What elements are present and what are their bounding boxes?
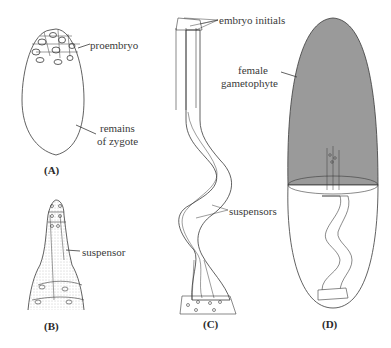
panel-a-zygote [22,29,96,155]
label-suspensors: suspensors [229,205,277,217]
panel-d-gametophyte [281,18,378,308]
panel-c-suspensors [176,18,236,314]
label-remains-of-zygote-line2: of zygote [97,135,138,147]
label-female-gametophyte-line2: gametophyte [221,77,278,89]
embryo-initials-leaders [184,18,218,30]
female-gametophyte-leader [281,72,297,77]
caption-d: (D) [322,318,337,330]
panel-b-suspensor [28,200,84,310]
label-suspensor: suspensor [82,246,125,258]
caption-b: (B) [44,320,59,332]
proembryo-leader [78,44,90,48]
label-embryo-initials: embryo initials [219,14,285,26]
label-female-gametophyte-line1: female [238,64,268,76]
label-remains-of-zygote-line1: remains [100,122,135,134]
caption-a: (A) [44,164,59,176]
label-proembryo: proembryo [90,39,138,51]
caption-c: (C) [203,318,218,330]
